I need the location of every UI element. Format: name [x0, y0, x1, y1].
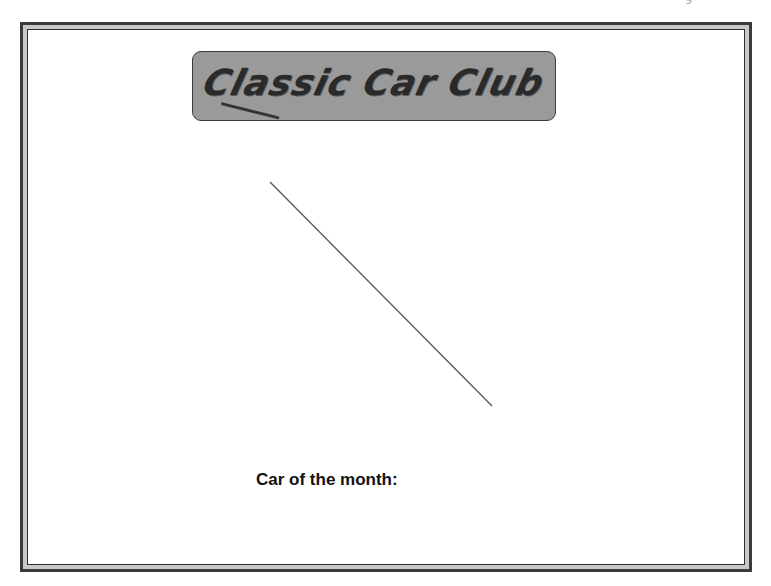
car-of-the-month-label: Car of the month:	[256, 470, 398, 490]
image-placeholder-line	[0, 0, 771, 586]
